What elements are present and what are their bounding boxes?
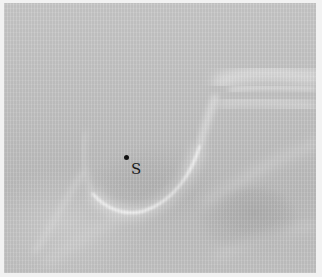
bone-contours [4, 3, 316, 273]
radiograph-image [4, 3, 316, 273]
landmark-point-s [124, 155, 129, 160]
image-frame: S [0, 0, 322, 277]
landmark-label-s: S [131, 162, 141, 177]
